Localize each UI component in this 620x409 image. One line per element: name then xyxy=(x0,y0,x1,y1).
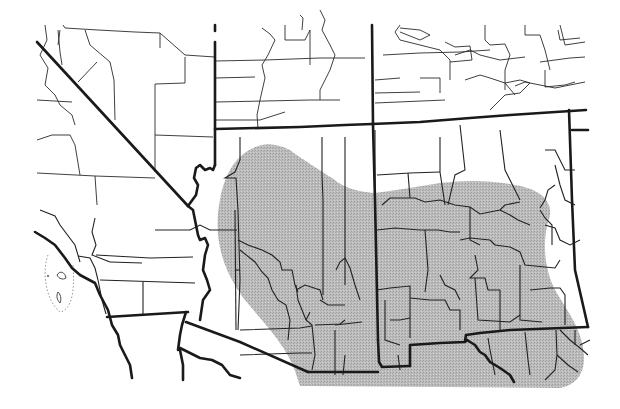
range-map xyxy=(0,0,620,409)
distribution-range xyxy=(218,144,584,388)
